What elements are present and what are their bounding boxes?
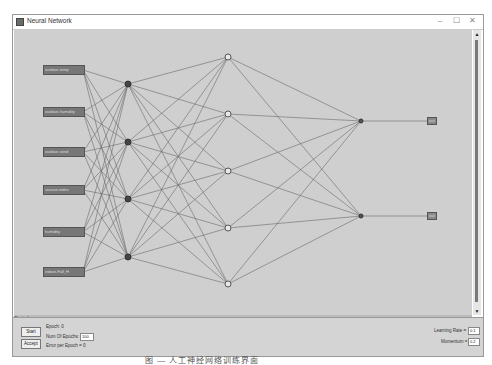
hidden2-neuron <box>225 168 231 174</box>
input-node-label: season-index <box>43 185 85 195</box>
learning-rate-label: Learning Rate = <box>434 328 466 333</box>
network-canvas: outdoor-tempoutdoor-humidityoutdoor-wind… <box>14 30 472 315</box>
connection-line <box>83 152 128 257</box>
connection-line <box>83 84 128 152</box>
hidden2-neuron <box>225 111 231 117</box>
connection-line <box>128 199 228 228</box>
start-button[interactable]: Start <box>21 327 41 337</box>
output-neuron <box>359 214 363 218</box>
connection-line <box>83 142 128 272</box>
connection-line <box>83 84 128 190</box>
connection-line <box>128 84 228 228</box>
connection-line <box>228 121 361 284</box>
scroll-down-icon[interactable]: ▼ <box>473 307 481 315</box>
connection-line <box>228 121 361 171</box>
close-button[interactable]: ✕ <box>465 16 479 25</box>
output-node-label: out <box>427 117 437 125</box>
output-node-label: out <box>427 212 437 220</box>
input-node-label: indoor-Fall_H <box>43 267 85 277</box>
hidden1-neuron <box>125 196 131 202</box>
scroll-up-icon[interactable]: ▲ <box>473 30 481 38</box>
maximize-button[interactable]: ☐ <box>449 16 463 25</box>
connection-line <box>83 142 128 152</box>
connection-line <box>83 70 128 84</box>
connection-line <box>228 57 361 216</box>
connection-line <box>128 57 228 84</box>
connection-line <box>128 257 228 284</box>
connection-line <box>128 199 228 284</box>
connection-line <box>128 142 228 284</box>
connection-line <box>228 57 361 121</box>
window-title: Neural Network <box>27 17 72 24</box>
epoch-label: Epoch: 0 <box>46 324 64 329</box>
num-epochs-input[interactable]: 100 <box>80 333 94 341</box>
connection-line <box>228 114 361 216</box>
accept-button[interactable]: Accept <box>21 339 41 349</box>
minimize-button[interactable]: – <box>433 16 447 25</box>
connection-line <box>128 57 228 199</box>
hidden1-neuron <box>125 81 131 87</box>
num-epochs-label: Num Of Epochs: <box>46 334 79 339</box>
connection-line <box>83 190 128 257</box>
hidden2-neuron <box>225 225 231 231</box>
hidden1-neuron <box>125 254 131 260</box>
connection-line <box>228 171 361 216</box>
connection-line <box>128 57 228 257</box>
momentum-input[interactable]: 0.2 <box>468 338 480 346</box>
controls-panel: Start Accept Epoch: 0 Num Of Epochs: 100… <box>12 317 484 357</box>
connection-line <box>128 84 228 114</box>
input-node-label: humidity <box>43 227 85 237</box>
connection-line <box>228 121 361 228</box>
hidden1-neuron <box>125 139 131 145</box>
connection-line <box>83 152 128 199</box>
connection-line <box>228 114 361 121</box>
hidden2-neuron <box>225 54 231 60</box>
connection-line <box>128 114 228 257</box>
error-label: Error per Epoch = 0 <box>46 343 85 348</box>
connection-line <box>83 142 128 190</box>
output-neuron <box>359 119 363 123</box>
connection-line <box>83 84 128 272</box>
input-node-label: outdoor-temp <box>43 65 85 75</box>
title-bar: Neural Network – ☐ ✕ <box>13 15 483 30</box>
input-node-label: outdoor-wind <box>43 147 85 157</box>
connection-line <box>83 190 128 199</box>
input-node-label: outdoor-humidity <box>43 107 85 117</box>
connection-line <box>128 57 228 142</box>
app-window: Neural Network – ☐ ✕ outdoor-tempoutdoor… <box>12 14 484 334</box>
figure-caption: 图 — 人工神经网络训练界面 <box>145 354 259 365</box>
vertical-scrollbar[interactable]: ▲ ▼ <box>473 30 481 315</box>
learning-rate-input[interactable]: 0.1 <box>468 327 480 335</box>
hidden2-neuron <box>225 281 231 287</box>
momentum-label: Momentum = <box>441 339 467 344</box>
connection-line <box>83 257 128 272</box>
connection-line <box>128 228 228 257</box>
app-icon <box>16 18 24 26</box>
scroll-thumb[interactable] <box>475 40 478 302</box>
